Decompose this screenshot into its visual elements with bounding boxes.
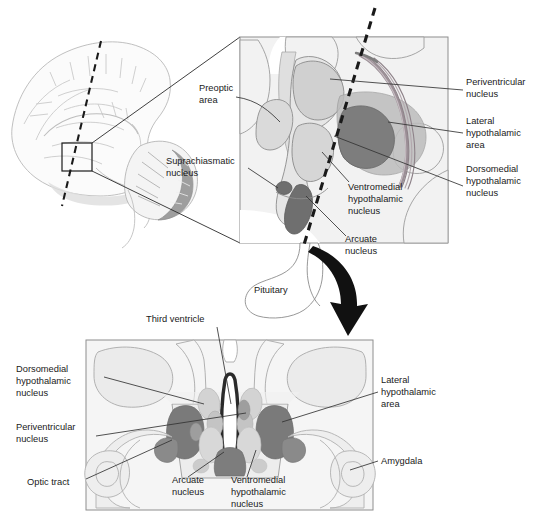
coronal-section-panel [85, 340, 375, 510]
label-lateral-hypothalamic-area-sagittal-line-0: Lateral [466, 116, 494, 126]
midline-notch [223, 340, 238, 362]
label-lateral-hypothalamic-area-coronal-line-0: Lateral [381, 375, 409, 385]
label-periventricular-nucleus-coronal-line-0: Periventricular [16, 422, 75, 432]
label-arcuate-nucleus-sagittal-line-1: nucleus [345, 246, 377, 256]
label-dorsomedial-hypothalamic-nucleus-coronal-line-0: Dorsomedial [16, 364, 68, 374]
label-dorsomedial-hypothalamic-nucleus-sagittal-line-0: Dorsomedial [466, 164, 518, 174]
accessory-nucleus-right [238, 400, 250, 420]
label-preoptic-area-line-1: area [199, 95, 218, 105]
label-lateral-hypothalamic-area-coronal-line-2: area [381, 399, 400, 409]
label-arcuate-nucleus-coronal-line-1: nucleus [172, 487, 204, 497]
label-lateral-hypothalamic-area-sagittal-line-2: area [466, 140, 485, 150]
amygdala-right-core [341, 462, 364, 487]
label-dorsomedial-hypothalamic-nucleus-sagittal-line-2: nucleus [466, 188, 498, 198]
label-amygdala-line-0: Amygdala [381, 456, 423, 466]
label-optic-tract-line-0: Optic tract [27, 477, 70, 487]
label-arcuate-nucleus-sagittal-line-0: Arcuate [345, 234, 377, 244]
label-ventromedial-hypothalamic-nucleus-coronal-line-1: hypothalamic [231, 487, 286, 497]
label-third-ventricle: Third ventricle [146, 314, 204, 324]
arcuate-nucleus-coronal [214, 448, 245, 477]
label-suprachiasmatic-nucleus-line-1: nucleus [166, 168, 198, 178]
label-dorsomedial-hypothalamic-nucleus-coronal-line-2: nucleus [16, 388, 48, 398]
label-suprachiasmatic-nucleus-line-0: Suprachiasmatic [166, 156, 235, 166]
label-ventromedial-hypothalamic-nucleus-sagittal-line-2: nucleus [348, 206, 380, 216]
label-lateral-hypothalamic-area-sagittal-line-1: hypothalamic [466, 128, 521, 138]
label-pituitary-line-0: Pituitary [254, 285, 288, 295]
ventromedial-accessory-right [251, 459, 267, 473]
ventromedial-accessory-left [193, 459, 209, 473]
label-periventricular-nucleus-coronal-line-1: nucleus [16, 434, 48, 444]
label-pituitary: Pituitary [254, 285, 288, 295]
label-third-ventricle-line-0: Third ventricle [146, 314, 204, 324]
label-ventromedial-hypothalamic-nucleus-coronal-line-0: Ventromedial [231, 475, 285, 485]
label-periventricular-nucleus-sagittal-line-0: Periventricular [466, 77, 525, 87]
label-periventricular-nucleus-sagittal-line-1: nucleus [466, 89, 498, 99]
figure-canvas: Preoptic area Suprachiasmatic nucleus Pe… [0, 0, 537, 526]
label-arcuate-nucleus-coronal-line-0: Arcuate [172, 475, 204, 485]
label-optic-tract: Optic tract [27, 477, 70, 487]
label-dorsomedial-hypothalamic-nucleus-sagittal-line-1: hypothalamic [466, 176, 521, 186]
label-dorsomedial-hypothalamic-nucleus-coronal-line-1: hypothalamic [16, 376, 71, 386]
optic-tract-right [282, 438, 306, 462]
suprachiasmatic-nucleus-region [276, 182, 292, 195]
label-preoptic-area-line-0: Preoptic [199, 83, 233, 93]
label-ventromedial-hypothalamic-nucleus-coronal-line-2: nucleus [231, 499, 263, 509]
cerebellum [125, 141, 198, 220]
optic-tract-left [154, 438, 178, 462]
hypothalamus-anatomy-figure: Preoptic area Suprachiasmatic nucleus Pe… [0, 0, 537, 526]
label-amygdala: Amygdala [381, 456, 423, 466]
label-lateral-hypothalamic-area-coronal-line-1: hypothalamic [381, 387, 436, 397]
label-ventromedial-hypothalamic-nucleus-sagittal-line-1: hypothalamic [348, 194, 403, 204]
label-ventromedial-hypothalamic-nucleus-sagittal-line-0: Ventromedial [348, 182, 402, 192]
